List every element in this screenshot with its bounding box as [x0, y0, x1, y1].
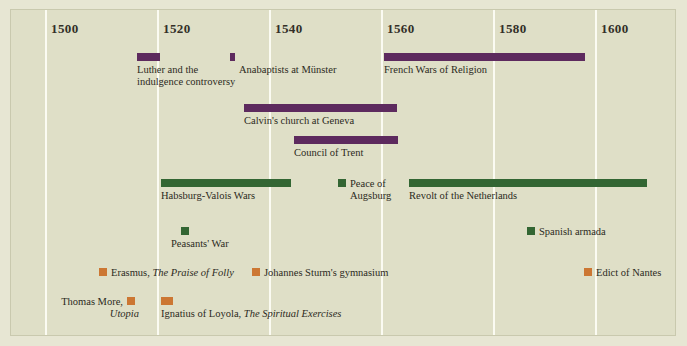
event-label-calvin: Calvin's church at Geneva: [244, 115, 354, 127]
axis-tick-1580: 1580: [499, 21, 527, 37]
chart-panel: 1500 1520 1540 1560 1580 1600 Luther and…: [10, 9, 676, 336]
event-bar-trent[interactable]: [294, 136, 398, 144]
event-label-luther-line2: indulgence controversy: [137, 76, 235, 88]
axis-tick-1600: 1600: [601, 21, 629, 37]
event-bar-luther[interactable]: [137, 53, 160, 61]
event-label-luther-line1: Luther and the: [137, 64, 198, 76]
event-marker-more[interactable]: [127, 297, 135, 305]
gridline-1540: [269, 10, 271, 335]
event-bar-calvin[interactable]: [244, 104, 397, 112]
event-label-loyola-italic: The Spiritual Exercises: [244, 308, 342, 319]
event-label-loyola: Ignatius of Loyola, The Spiritual Exerci…: [161, 308, 341, 320]
event-label-sturm: Johannes Sturm's gymnasium: [264, 267, 388, 279]
event-bar-habsburg[interactable]: [161, 179, 291, 187]
event-marker-erasmus[interactable]: [99, 268, 107, 276]
axis-tick-1500: 1500: [51, 21, 79, 37]
axis-tick-1560: 1560: [387, 21, 415, 37]
gridline-1500: [45, 10, 47, 335]
event-label-peasants: Peasants' War: [171, 238, 229, 250]
event-marker-loyola[interactable]: [161, 297, 173, 305]
gridline-1600: [595, 10, 597, 335]
event-marker-nantes[interactable]: [584, 268, 592, 276]
event-label-armada: Spanish armada: [539, 226, 606, 238]
event-label-anabaptists: Anabaptists at Münster: [239, 64, 336, 76]
event-marker-armada[interactable]: [527, 227, 535, 235]
event-label-revolt: Revolt of the Netherlands: [409, 190, 517, 202]
event-label-erasmus-roman: Erasmus,: [111, 267, 150, 278]
event-marker-anabaptists[interactable]: [230, 53, 235, 61]
event-label-augsburg-line1: Peace of: [350, 178, 386, 190]
gridline-1560: [381, 10, 383, 335]
event-label-nantes: Edict of Nantes: [596, 267, 661, 279]
event-marker-peasants[interactable]: [181, 227, 189, 235]
event-label-augsburg-line2: Augsburg: [350, 190, 391, 202]
event-marker-sturm[interactable]: [252, 268, 260, 276]
event-label-more-italic: Utopia: [27, 308, 139, 320]
event-bar-french-wars[interactable]: [384, 53, 585, 61]
event-label-erasmus-italic: The Praise of Folly: [152, 267, 233, 278]
event-label-habsburg: Habsburg-Valois Wars: [161, 190, 255, 202]
event-label-french-wars: French Wars of Religion: [384, 64, 487, 76]
event-label-more-roman: Thomas More,: [27, 296, 123, 308]
event-bar-revolt[interactable]: [409, 179, 647, 187]
axis-tick-1540: 1540: [275, 21, 303, 37]
event-label-trent: Council of Trent: [294, 147, 363, 159]
event-label-erasmus: Erasmus, The Praise of Folly: [111, 267, 234, 279]
timeline-chart: 1500 1520 1540 1560 1580 1600 Luther and…: [0, 0, 687, 346]
event-marker-augsburg[interactable]: [338, 179, 346, 187]
axis-tick-1520: 1520: [163, 21, 191, 37]
event-label-loyola-roman: Ignatius of Loyola,: [161, 308, 241, 319]
